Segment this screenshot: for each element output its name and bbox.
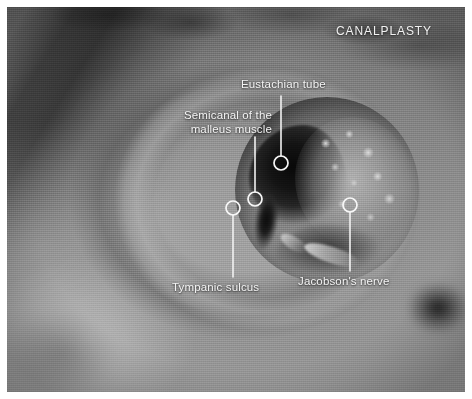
- vignette: [7, 7, 465, 392]
- annotation-label-jacobsons-nerve: Jacobson's nerve: [298, 275, 390, 289]
- anatomical-photograph: [7, 7, 465, 392]
- annotation-label-tympanic-sulcus: Tympanic sulcus: [172, 281, 259, 295]
- annotation-label-eustachian-tube: Eustachian tube: [241, 78, 326, 92]
- annotation-label-semicanal-malleus-muscle: Semicanal of the malleus muscle: [176, 109, 272, 136]
- canalplasty-figure: CANALPLASTY Eustachian tube Semicanal of…: [0, 0, 472, 399]
- figure-title: CANALPLASTY: [336, 24, 432, 38]
